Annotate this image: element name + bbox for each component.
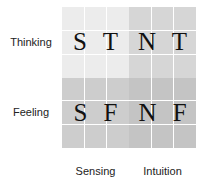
quadrant-label: N T (129, 7, 196, 78)
row-label-thinking: Thinking (2, 36, 60, 48)
quadrant-nt: N T (129, 7, 196, 78)
quadrant-label: S F (62, 78, 129, 149)
column-label-intuition: Intuition (129, 165, 196, 177)
quadrant-st: S T (62, 7, 129, 78)
quadrant-sf: S F (62, 78, 129, 149)
column-label-sensing: Sensing (62, 165, 129, 177)
row-label-feeling: Feeling (2, 106, 60, 118)
quadrant-label: S T (62, 7, 129, 78)
quadrant-nf: N F (129, 78, 196, 149)
quadrant-label: N F (129, 78, 196, 149)
type-grid: S T N T S F N F (62, 7, 196, 148)
